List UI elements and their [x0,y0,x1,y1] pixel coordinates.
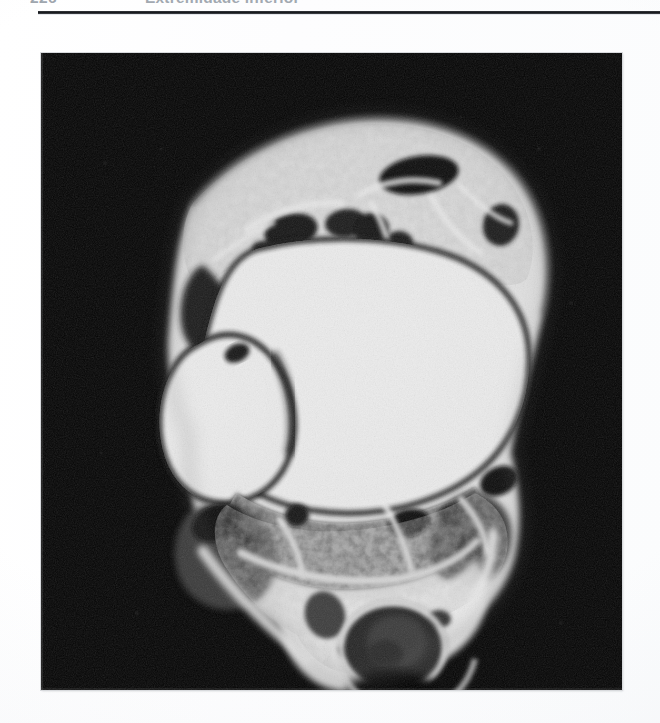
plate-edge-left [41,53,43,690]
mri-axial-image [41,53,622,690]
plate-edge-bottom [41,688,622,690]
scan-grain-overlay [41,53,622,690]
header-divider-rule [38,11,660,14]
page-canvas: 226 Extremidade inferior [0,0,660,723]
page-folio-number: 226 [30,0,57,7]
running-header: 226 Extremidade inferior [0,0,660,7]
mri-figure-plate [41,53,622,690]
chapter-title: Extremidade inferior [145,0,300,7]
